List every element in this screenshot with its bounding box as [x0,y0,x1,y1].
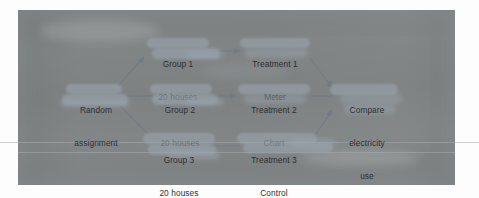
group-3-line-2: 20 houses [147,188,211,198]
random-assignment-line-1: Random [58,105,134,116]
compare-line-3: use [336,171,398,182]
compare-line-1: Compare [336,105,398,116]
treatment-3-line-2: Control [238,188,310,198]
random-assignment-node[interactable]: Random assignment [58,83,134,171]
group-1-line-1: Group 1 [146,59,210,70]
compare-outcome-node[interactable]: Compare electricity use [336,83,398,198]
group-3-line-1: Group 3 [147,155,211,166]
compare-line-2: electricity [336,138,398,149]
treatment-1-line-1: Treatment 1 [240,59,310,70]
treatment-3-line-1: Treatment 3 [238,155,310,166]
group-2-line-1: Group 2 [148,105,212,116]
random-assignment-line-2: assignment [58,138,134,149]
group-3-node[interactable]: Group 3 20 houses [147,133,211,198]
screenshot-root: Random assignment Group 1 20 houses Grou… [0,0,479,198]
treatment-3-node[interactable]: Treatment 3 Control [238,133,310,198]
treatment-2-line-1: Treatment 2 [238,105,310,116]
